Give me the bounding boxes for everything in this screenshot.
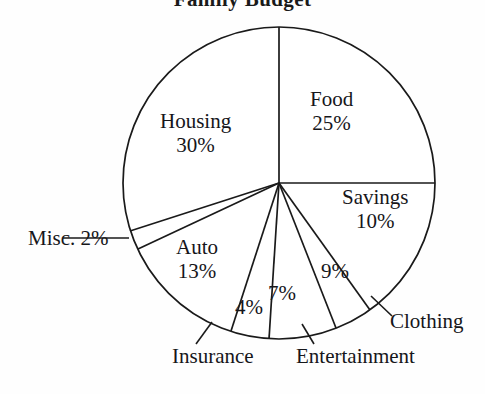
chart-page: Family Budget Food 25% Housing 30% bbox=[0, 0, 485, 394]
slice-label-clothing-pct: 9% bbox=[321, 260, 349, 284]
slice-label-entertainment-pct: 7% bbox=[268, 282, 296, 306]
slice-label-auto-name: Auto bbox=[176, 236, 218, 260]
slice-label-housing-pct: 30% bbox=[160, 134, 231, 158]
slice-label-entertainment: Entertainment bbox=[296, 345, 415, 369]
slice-label-housing-name: Housing bbox=[160, 110, 231, 134]
slice-label-insurance: Insurance bbox=[172, 345, 254, 369]
leader-line-insurance bbox=[196, 322, 212, 344]
slice-label-clothing: Clothing bbox=[390, 310, 464, 334]
slice-label-auto: Auto 13% bbox=[176, 236, 218, 284]
slice-label-savings-pct: 10% bbox=[342, 210, 409, 234]
slice-label-misc: Misc. 2% bbox=[28, 227, 109, 251]
slice-label-savings-name: Savings bbox=[342, 186, 409, 210]
slice-label-food-pct: 25% bbox=[310, 112, 353, 136]
pie-chart-graphic bbox=[0, 0, 485, 394]
slice-label-food-name: Food bbox=[310, 88, 353, 112]
slice-label-housing: Housing 30% bbox=[160, 110, 231, 158]
slice-label-food: Food 25% bbox=[310, 88, 353, 136]
slice-label-savings: Savings 10% bbox=[342, 186, 409, 234]
slice-label-insurance-pct: 4% bbox=[235, 296, 263, 320]
slice-label-auto-pct: 13% bbox=[176, 260, 218, 284]
